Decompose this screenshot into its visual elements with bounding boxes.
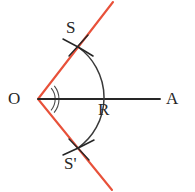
lower-cross-arc (63, 140, 94, 155)
point-label-r: R (98, 101, 109, 118)
upper-angle-arm-line (38, 2, 113, 99)
geometry-figure: O A R S S' (0, 0, 195, 192)
upper-cross-arc (63, 39, 93, 56)
ray-end-label-a: A (166, 90, 178, 107)
point-label-s: S (66, 19, 75, 36)
main-construction-arc (78, 47, 104, 148)
point-label-s-prime: S' (64, 155, 77, 172)
vertex-label-o: O (8, 90, 20, 107)
